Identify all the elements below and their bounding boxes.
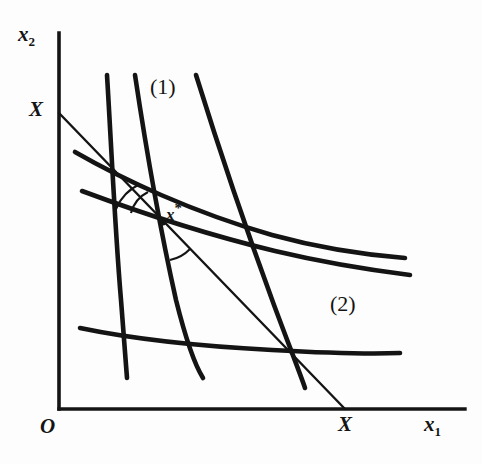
- axes-group: [59, 33, 465, 409]
- y-axis-label-subscript: 2: [29, 34, 36, 49]
- shallow-family-label: (2): [330, 293, 356, 315]
- x-axis-label: x1: [424, 414, 441, 438]
- optimum-point-label: x*: [166, 201, 182, 223]
- x-axis-label-text: x: [424, 412, 435, 436]
- diagram-svg: [0, 0, 482, 464]
- figure-canvas: x2 x1 O X X x* (1) (2): [0, 0, 482, 464]
- endowment-y-label: X: [29, 99, 43, 120]
- optimum-point-label-star: *: [175, 200, 183, 216]
- steep-family-label: (1): [150, 76, 176, 98]
- steep-curve-3: [196, 75, 305, 388]
- lower-angle-arc: [170, 249, 190, 260]
- budget-line-group: [59, 113, 345, 409]
- endowment-x-label: X: [338, 414, 352, 435]
- optimum-point-label-text: x: [166, 205, 175, 224]
- y-axis-label-text: x: [18, 22, 29, 46]
- y-axis-label: x2: [18, 24, 35, 48]
- x-axis-label-subscript: 1: [435, 424, 442, 439]
- budget-line: [59, 113, 345, 409]
- shallow-curve-3: [80, 328, 400, 353]
- origin-label: O: [40, 416, 55, 437]
